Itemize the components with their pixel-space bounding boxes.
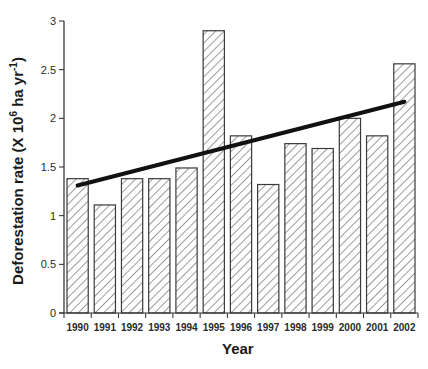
x-tick-label: 1994 <box>175 322 198 333</box>
bar-1991 <box>94 205 115 313</box>
x-tick-label: 1996 <box>230 322 253 333</box>
y-tick-label: 1.5 <box>41 161 56 173</box>
bar-1996 <box>230 136 251 313</box>
bar-1990 <box>67 179 88 313</box>
y-tick-label: 0 <box>50 307 56 319</box>
x-tick-label: 1992 <box>121 322 144 333</box>
y-axis-title-container: Deforestation rate (X 106 ha yr-1) <box>2 36 32 306</box>
y-tick-label: 2 <box>50 112 56 124</box>
y-tick-label: 1 <box>50 210 56 222</box>
bars-group <box>67 31 415 313</box>
x-tick-label: 2000 <box>339 322 362 333</box>
bar-1997 <box>258 185 279 313</box>
x-tick-label: 1997 <box>257 322 280 333</box>
bar-2000 <box>339 118 360 313</box>
bar-1999 <box>312 149 333 313</box>
x-tick-label: 1990 <box>66 322 89 333</box>
x-tick-label: 1995 <box>203 322 226 333</box>
bar-chart: 1990199119921993199419951996199719981999… <box>0 0 428 369</box>
bar-1994 <box>176 168 197 313</box>
x-tick-label: 1998 <box>284 322 307 333</box>
x-tick-label: 1993 <box>148 322 171 333</box>
bar-2001 <box>367 136 388 313</box>
bar-1992 <box>121 179 142 313</box>
y-tick-label: 3 <box>50 15 56 27</box>
y-tick-label: 0.5 <box>41 258 56 270</box>
x-tick-label: 1999 <box>312 322 335 333</box>
bar-1998 <box>285 144 306 313</box>
y-tick-label: 2.5 <box>41 64 56 76</box>
bar-1995 <box>203 31 224 313</box>
x-tick-label: 2002 <box>393 322 416 333</box>
y-axis-title: Deforestation rate (X 106 ha yr-1) <box>8 57 26 285</box>
x-tick-label: 2001 <box>366 322 389 333</box>
x-axis-title: Year <box>222 340 254 357</box>
x-tick-label: 1991 <box>94 322 117 333</box>
bar-1993 <box>149 179 170 313</box>
